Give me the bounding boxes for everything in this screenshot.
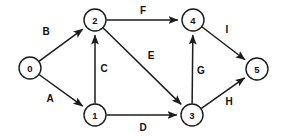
graph-node-1[interactable]: 1 [84, 104, 106, 126]
edge-label-d: D [139, 122, 146, 133]
graph-canvas: ABCDEFGHI 012345 [0, 0, 281, 136]
graph-node-5[interactable]: 5 [246, 58, 268, 80]
graph-edge-i [202, 27, 245, 60]
graph-node-4[interactable]: 4 [182, 9, 204, 31]
node-label-4: 4 [190, 15, 196, 26]
node-label-1: 1 [92, 110, 98, 121]
node-label-5: 5 [254, 64, 260, 75]
edge-label-g: G [197, 65, 205, 76]
edges-layer [39, 20, 245, 115]
graph-node-3[interactable]: 3 [181, 104, 203, 126]
graph-edge-g [192, 35, 193, 103]
edge-label-h: H [225, 96, 232, 107]
edge-label-c: C [100, 63, 107, 74]
edge-label-i: I [226, 24, 229, 35]
graph-edge-h [201, 78, 244, 109]
node-label-0: 0 [27, 63, 32, 74]
edge-label-f: F [140, 5, 146, 16]
edge-label-b: B [42, 26, 49, 37]
edge-label-e: E [148, 50, 155, 61]
graph-node-2[interactable]: 2 [84, 9, 106, 31]
node-label-3: 3 [189, 110, 194, 121]
edge-label-a: A [46, 93, 53, 104]
graph-node-0[interactable]: 0 [19, 57, 41, 79]
node-label-2: 2 [92, 15, 97, 26]
graph-edge-e [103, 28, 181, 104]
directed-graph-diagram: ABCDEFGHI 012345 [0, 0, 281, 136]
